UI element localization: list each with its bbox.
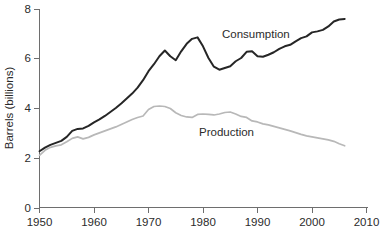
production-series-label: Production — [199, 126, 254, 138]
chart-canvas: 0 2 4 6 8 1950 1960 1970 1980 1990 2000 … — [0, 0, 392, 240]
x-axis-ticks — [40, 208, 367, 213]
x-tick-label-1990: 1990 — [245, 216, 271, 228]
x-tick-label-2010: 2010 — [354, 216, 380, 228]
oil-production-consumption-chart: 0 2 4 6 8 1950 1960 1970 1980 1990 2000 … — [0, 0, 392, 240]
y-tick-label-6: 6 — [25, 52, 31, 64]
x-tick-label-1970: 1970 — [136, 216, 162, 228]
y-tick-label-8: 8 — [25, 3, 31, 15]
x-tick-label-2000: 2000 — [299, 216, 325, 228]
y-axis-ticks — [34, 10, 40, 209]
consumption-line — [40, 19, 345, 151]
y-tick-label-0: 0 — [25, 202, 31, 214]
y-tick-label-4: 4 — [25, 102, 32, 114]
y-tick-label-2: 2 — [25, 152, 31, 164]
y-axis-title: Barrels (billions) — [3, 67, 15, 150]
x-tick-label-1950: 1950 — [27, 216, 53, 228]
x-tick-label-1960: 1960 — [81, 216, 107, 228]
consumption-series-label: Consumption — [222, 28, 290, 40]
production-line — [40, 106, 345, 155]
x-tick-label-1980: 1980 — [190, 216, 216, 228]
